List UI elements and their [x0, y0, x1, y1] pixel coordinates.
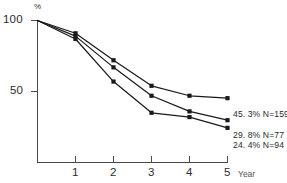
series-1-point-year3 — [149, 84, 153, 88]
series-2-end-label: 29. 8% N=77 — [233, 131, 284, 140]
series-2-point-year4 — [187, 109, 191, 113]
series-1-point-year5 — [225, 96, 229, 100]
series-3-point-year5 — [225, 126, 229, 130]
x-tick-label-3: 3 — [148, 167, 154, 179]
y-axis-unit-percent: % — [34, 3, 41, 11]
y-tick-label-50: 50 — [10, 85, 23, 97]
series-1-point-year4 — [187, 94, 191, 98]
series-2-point-year5 — [225, 118, 229, 122]
series-1-end-label: 45. 3% N=159 — [233, 110, 287, 119]
survival-curve-figure: 100 % 50 1 2 3 4 5 Year 45. 3% N=159 29.… — [0, 0, 287, 183]
series-3-point-year2 — [111, 79, 115, 83]
x-tick-label-4: 4 — [186, 167, 192, 179]
chart-plot-area — [0, 0, 287, 183]
y-tick-label-100: 100 — [3, 14, 23, 26]
x-tick-label-2: 2 — [110, 167, 116, 179]
series-3-line — [38, 21, 228, 128]
series-3-end-label: 24. 4% N=94 — [233, 141, 284, 150]
series-3-point-year1 — [73, 37, 77, 41]
series-2-point-year2 — [111, 65, 115, 69]
x-tick-label-5: 5 — [224, 167, 230, 179]
x-axis-title: Year — [238, 170, 255, 179]
series-3-point-year3 — [149, 111, 153, 115]
series-2-line — [38, 21, 228, 121]
series-3-point-year4 — [187, 115, 191, 119]
series-2-point-year3 — [149, 94, 153, 98]
series-1-point-year2 — [111, 58, 115, 62]
series-2-group — [38, 21, 230, 123]
x-tick-label-1: 1 — [72, 167, 78, 179]
